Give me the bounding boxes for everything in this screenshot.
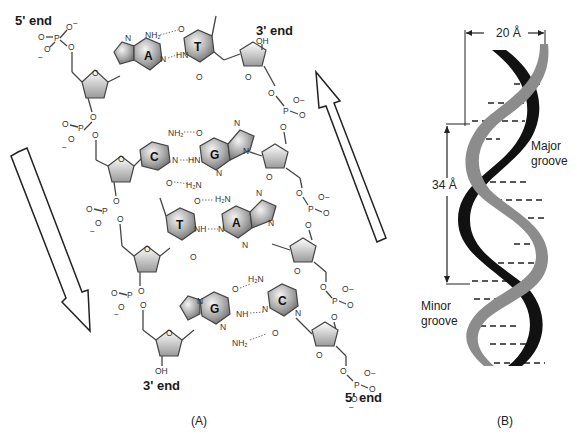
svg-text:O: O: [299, 110, 306, 120]
svg-text:P: P: [354, 380, 360, 390]
svg-text:N: N: [262, 304, 268, 314]
svg-text:O: O: [293, 95, 300, 105]
svg-text:N: N: [256, 188, 262, 198]
svg-text:O: O: [113, 196, 120, 206]
svg-text:O: O: [166, 178, 173, 188]
arrow-down-icon: [11, 148, 90, 331]
svg-text:N: N: [125, 33, 131, 43]
svg-text:O: O: [92, 68, 99, 78]
svg-text:G: G: [210, 302, 219, 316]
svg-text:C: C: [278, 294, 287, 308]
svg-text:P: P: [332, 296, 338, 306]
svg-text:H₂N: H₂N: [186, 180, 202, 190]
svg-text:A: A: [232, 216, 241, 230]
svg-text:N: N: [295, 308, 301, 318]
svg-text:OH: OH: [155, 366, 168, 376]
svg-text:O: O: [38, 32, 45, 42]
svg-text:O: O: [316, 350, 323, 360]
svg-text:O: O: [140, 300, 147, 310]
svg-text:O: O: [266, 172, 273, 182]
svg-text:NH₂: NH₂: [168, 128, 184, 138]
base-pair-t-a: T O NH O A H₂N N N N N: [160, 188, 276, 262]
minor-groove-label-line1: Minor: [421, 299, 451, 313]
svg-text:C: C: [150, 150, 159, 164]
svg-text:N: N: [172, 155, 178, 165]
svg-text:O: O: [331, 312, 338, 322]
major-groove-label-line1: Major: [531, 139, 561, 153]
svg-text:H₂N: H₂N: [215, 194, 231, 204]
svg-text:−: −: [349, 284, 354, 294]
svg-text:−: −: [62, 142, 67, 152]
svg-text:N: N: [242, 240, 248, 250]
svg-text:−: −: [73, 18, 78, 28]
svg-text:O: O: [68, 42, 75, 52]
svg-text:O: O: [138, 286, 145, 296]
svg-text:NH: NH: [194, 224, 206, 234]
svg-text:O: O: [280, 122, 287, 132]
svg-text:O: O: [232, 284, 239, 294]
svg-text:O: O: [95, 218, 102, 228]
svg-text:O: O: [364, 368, 371, 378]
panel-b-label: (B): [497, 414, 513, 428]
svg-text:−: −: [371, 368, 376, 378]
svg-text:O: O: [144, 244, 151, 254]
svg-text:O: O: [347, 300, 354, 310]
svg-text:−: −: [300, 95, 305, 105]
width-label: 20 Å: [494, 26, 523, 40]
svg-text:−: −: [114, 309, 119, 319]
svg-text:O: O: [111, 288, 118, 298]
svg-text:P: P: [78, 123, 84, 133]
svg-text:O: O: [118, 302, 125, 312]
svg-text:O: O: [340, 366, 347, 376]
label-5-prime-bottom-right: 5' end: [345, 390, 382, 405]
svg-text:N: N: [160, 54, 166, 64]
svg-text:O: O: [194, 196, 201, 206]
svg-text:O: O: [68, 134, 75, 144]
svg-text:O: O: [342, 284, 349, 294]
svg-text:N: N: [234, 118, 240, 128]
svg-text:N: N: [268, 218, 274, 228]
svg-text:N: N: [216, 168, 222, 178]
label-3-prime-top-right: 3' end: [256, 23, 293, 38]
svg-text:O: O: [118, 154, 125, 164]
label-5-prime-top-left: 5' end: [15, 13, 52, 28]
base-pair-a-t: A N NH₂ N T O HN O: [114, 16, 224, 82]
svg-text:N: N: [220, 322, 226, 332]
svg-text:O: O: [323, 208, 330, 218]
svg-text:NH₂: NH₂: [145, 30, 161, 40]
minor-groove-label-line2: groove: [421, 314, 458, 328]
svg-text:T: T: [176, 218, 184, 232]
svg-text:O: O: [62, 119, 69, 129]
svg-text:NH₂: NH₂: [232, 338, 248, 348]
label-3-prime-bottom-left: 3' end: [143, 378, 180, 393]
svg-text:O: O: [190, 252, 197, 262]
svg-text:O: O: [166, 328, 173, 338]
svg-text:N: N: [243, 146, 249, 156]
svg-text:HN: HN: [188, 155, 200, 165]
svg-text:O: O: [44, 44, 51, 54]
svg-text:O: O: [268, 88, 275, 98]
svg-text:P: P: [127, 290, 133, 300]
svg-text:NH: NH: [236, 309, 248, 319]
svg-text:G: G: [210, 148, 219, 162]
major-groove-label-line2: groove: [531, 154, 568, 168]
pitch-label: 34 Å: [432, 178, 457, 192]
svg-text:O: O: [296, 188, 303, 198]
svg-text:O: O: [294, 266, 301, 276]
svg-text:P: P: [102, 206, 108, 216]
base-pair-c-g: C NH₂ N O G O HN N H₂N N N: [140, 118, 254, 190]
svg-text:O: O: [117, 214, 124, 224]
svg-text:N: N: [218, 224, 224, 234]
svg-text:N: N: [197, 296, 203, 306]
svg-text:P: P: [283, 106, 289, 116]
panel-a-structure: O P O− O− O O O O P O− O O O O P O−: [0, 0, 577, 439]
svg-text:−: −: [325, 192, 330, 202]
svg-text:O: O: [178, 24, 185, 34]
svg-text:O: O: [318, 192, 325, 202]
svg-text:O: O: [320, 282, 327, 292]
svg-text:H₂N: H₂N: [248, 274, 264, 284]
svg-text:O: O: [245, 72, 252, 82]
svg-text:A: A: [144, 49, 153, 63]
svg-text:O: O: [196, 128, 203, 138]
panel-a-label: (A): [191, 414, 207, 428]
